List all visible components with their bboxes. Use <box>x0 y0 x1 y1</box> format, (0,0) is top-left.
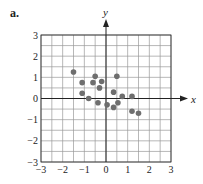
y-axis-arrow-icon <box>103 19 109 27</box>
y-tick-label: −3 <box>27 157 38 168</box>
x-tick-label: −1 <box>79 164 90 175</box>
y-tick-label: 3 <box>33 30 38 41</box>
data-point <box>111 89 117 95</box>
x-axis-arrow-icon <box>180 96 188 102</box>
data-point <box>71 69 77 75</box>
data-point <box>114 73 120 79</box>
data-point <box>97 85 103 91</box>
x-axis-label: x <box>190 93 196 105</box>
x-tick-label: 0 <box>104 164 109 175</box>
y-tick-label: 2 <box>33 51 38 62</box>
y-tick-label: 1 <box>33 72 38 83</box>
y-axis-label: y <box>102 6 108 18</box>
data-point <box>104 102 110 108</box>
y-tick-label: 0 <box>33 93 38 104</box>
data-point <box>79 80 85 86</box>
x-tick-label: −2 <box>57 164 68 175</box>
y-tick-label: −1 <box>27 114 38 125</box>
x-tick-label: 2 <box>147 164 152 175</box>
x-tick-label: 1 <box>125 164 130 175</box>
data-point <box>111 105 117 111</box>
scatter-plot: xy−3−2−10123−3−2−10123 <box>0 0 203 184</box>
data-point <box>115 100 121 106</box>
data-point <box>99 79 105 85</box>
data-point <box>86 96 92 102</box>
data-point <box>129 108 135 114</box>
data-point <box>136 111 142 117</box>
data-point <box>95 100 101 106</box>
data-point <box>119 94 125 100</box>
data-point <box>79 90 85 96</box>
data-point <box>129 94 135 100</box>
data-point <box>90 80 96 86</box>
y-tick-label: −2 <box>27 135 38 146</box>
x-tick-label: 3 <box>169 164 174 175</box>
data-point <box>92 73 98 79</box>
